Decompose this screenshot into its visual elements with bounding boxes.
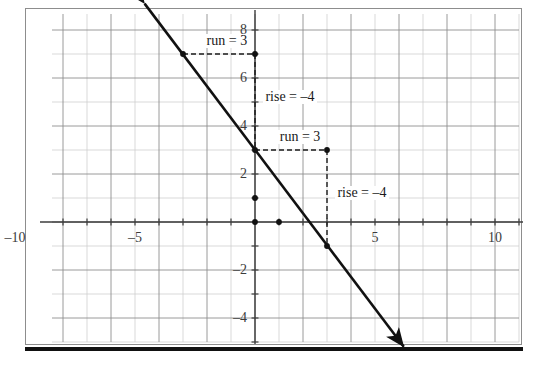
y-tick-label: 4 — [225, 119, 247, 133]
y-tick-label: –2 — [225, 263, 247, 277]
coordinate-plane-chart — [0, 0, 539, 370]
bottom-horizontal-rule — [25, 347, 523, 351]
x-tick-label: 5 — [362, 231, 388, 245]
y-tick-label: 6 — [225, 71, 247, 85]
grid-major-lines — [52, 14, 519, 342]
figure-page: –10–55108642–2–4 run = 3rise = –4run = 3… — [0, 0, 539, 370]
run-annotation: run = 3 — [278, 130, 323, 144]
run-annotation: run = 3 — [205, 34, 250, 48]
y-tick-label: –4 — [225, 311, 247, 325]
grid-minor-lines — [52, 14, 519, 342]
x-tick-label: –10 — [2, 231, 28, 245]
x-tick-label: –5 — [122, 231, 148, 245]
y-tick-label: 2 — [225, 167, 247, 181]
axis-ticks — [63, 30, 519, 342]
rise-annotation: rise = –4 — [335, 186, 388, 200]
rise-annotation: rise = –4 — [263, 90, 316, 104]
x-tick-label: 10 — [482, 231, 508, 245]
